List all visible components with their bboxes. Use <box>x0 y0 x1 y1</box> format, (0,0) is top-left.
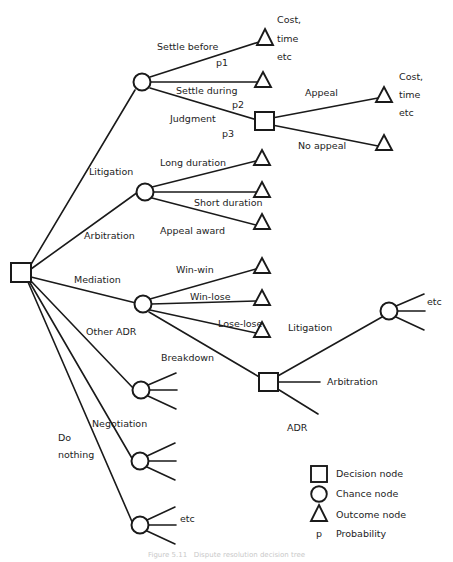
edge-do-nothing-c <box>147 531 175 544</box>
label-arbitration: Arbitration <box>84 230 135 241</box>
edge-etc-right-a <box>396 294 424 306</box>
edge-other-adr-c <box>148 396 176 409</box>
node-other-adr-chance[interactable] <box>133 382 150 399</box>
legend-label-chance-node: Chance node <box>336 488 398 499</box>
node-short-duration-outcome[interactable] <box>254 182 270 197</box>
label-settle-before: Settle before <box>157 41 218 52</box>
legend-chance-node-icon <box>311 486 327 502</box>
label-win-lose: Win-lose <box>190 291 231 302</box>
label-right-outcome-etc: etc <box>399 107 414 118</box>
node-litigation-chance[interactable] <box>134 74 151 91</box>
node-root-decision[interactable] <box>11 263 31 282</box>
node-breakdown-decision[interactable] <box>259 373 278 391</box>
edge-root-do-nothing <box>28 282 133 524</box>
legend-label-decision-node: Decision node <box>336 468 403 479</box>
label-win-win: Win-win <box>176 264 214 275</box>
label-litigation: Litigation <box>89 166 133 177</box>
label-breakdown-litigation: Litigation <box>288 322 332 333</box>
node-negotiation-chance[interactable] <box>132 453 149 470</box>
label-top-outcome-cost: Cost, <box>277 14 301 25</box>
edge-appeal <box>272 98 378 118</box>
node-arbitration-chance[interactable] <box>137 184 154 201</box>
node-mediation-chance[interactable] <box>135 296 152 313</box>
edge-do-nothing-a <box>147 507 175 520</box>
label-short-duration: Short duration <box>194 197 263 208</box>
label-right-outcome-cost: Cost, <box>399 71 423 82</box>
label-settle-during: Settle during <box>176 85 237 96</box>
label-do-nothing-line1: Do <box>58 432 71 443</box>
legend-symbols <box>311 466 327 521</box>
outcome-nodes <box>254 29 392 337</box>
legend-label-probability: Probability <box>336 528 386 539</box>
label-no-appeal: No appeal <box>298 140 346 151</box>
edge-etc-right-c <box>396 317 424 330</box>
label-breakdown: Breakdown <box>161 352 214 363</box>
node-settle-during-outcome[interactable] <box>255 72 271 87</box>
node-judgment-decision[interactable] <box>255 112 274 130</box>
label-settle-during-probability: p2 <box>232 99 244 110</box>
node-appeal-outcome[interactable] <box>376 87 392 102</box>
label-long-duration: Long duration <box>160 157 226 168</box>
edge-breakdown-adr <box>276 388 318 414</box>
node-settle-before-outcome[interactable] <box>257 29 273 45</box>
node-no-appeal-outcome[interactable] <box>376 135 392 150</box>
label-top-outcome-time: time <box>277 33 298 44</box>
node-breakdown-litigation-chance[interactable] <box>381 303 398 320</box>
label-other-adr: Other ADR <box>86 326 136 337</box>
figure-caption: Figure 5.11 Dispute resolution decision … <box>0 551 453 559</box>
legend-probability-symbol: p <box>316 528 322 539</box>
node-appeal-award-outcome[interactable] <box>254 214 270 229</box>
node-win-win-outcome[interactable] <box>254 258 270 273</box>
label-top-outcome-etc: etc <box>277 51 292 62</box>
label-judgment-probability: p3 <box>222 128 234 139</box>
edge-other-adr-a <box>148 373 176 385</box>
node-win-lose-outcome[interactable] <box>254 290 270 305</box>
label-breakdown-adr: ADR <box>287 422 307 433</box>
label-mediation: Mediation <box>74 274 121 285</box>
label-do-nothing-line2: nothing <box>58 449 94 460</box>
node-long-duration-outcome[interactable] <box>254 150 270 165</box>
node-do-nothing-chance[interactable] <box>132 517 149 534</box>
label-settle-before-probability: p1 <box>216 57 228 68</box>
legend-decision-node-icon <box>311 466 327 482</box>
label-appeal: Appeal <box>305 87 338 98</box>
label-etc-bottom: etc <box>180 513 195 524</box>
label-appeal-award: Appeal award <box>160 225 225 236</box>
label-breakdown-arbitration: Arbitration <box>327 376 378 387</box>
label-etc-right: etc <box>427 296 442 307</box>
label-judgment: Judgment <box>170 113 216 124</box>
decision-nodes <box>11 112 278 391</box>
label-negotiation: Negotiation <box>92 418 147 429</box>
label-lose-lose: Lose-lose <box>218 318 262 329</box>
edge-negotiation-c <box>147 467 175 480</box>
label-right-outcome-time: time <box>399 89 420 100</box>
edge-negotiation-a <box>147 443 175 456</box>
legend-label-outcome-node: Outcome node <box>336 509 406 520</box>
legend-outcome-node-icon <box>311 505 327 521</box>
